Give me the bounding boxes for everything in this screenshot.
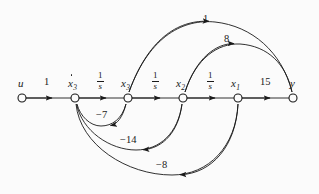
edge-weight-u-to-xd3: 1 — [44, 77, 49, 88]
edge-weight-x3-to-x2: 1s — [152, 72, 159, 93]
edge-weight-x2-to-y: 8 — [224, 34, 229, 45]
edge-arrow-x3-to-xd3 — [111, 104, 127, 126]
edge-weight-x3-to-y: 1 — [203, 14, 208, 25]
node-label-x2: x2 — [176, 78, 185, 89]
node-x2[interactable] — [179, 94, 187, 102]
edge-weight-x1-to-y: 15 — [260, 77, 271, 88]
signal-flow-graph-figure: u x3 x3 x2 x1 y 1 1s 1s 1s 15 1 8 −7 −14… — [0, 0, 319, 194]
node-y[interactable] — [289, 94, 297, 102]
edge-weight-x1-to-xd3: −8 — [156, 160, 167, 171]
edge-weight-x2-to-x1: 1s — [207, 72, 214, 93]
node-label-x1: x1 — [231, 78, 240, 89]
node-label-u: u — [18, 78, 24, 89]
edge-weight-x2-to-xd3: −14 — [120, 135, 136, 146]
node-xd3[interactable] — [71, 94, 79, 102]
node-x1[interactable] — [234, 94, 242, 102]
node-label-x3: x3 — [121, 78, 130, 89]
edge-weight-xd3-to-x3: 1s — [97, 72, 104, 93]
edge-weight-x3-to-xd3: −7 — [96, 110, 107, 121]
node-u[interactable] — [18, 94, 26, 102]
edge-arrow-x2-to-xd3 — [143, 104, 182, 150]
node-x3[interactable] — [124, 94, 132, 102]
edge-arrow-x3-to-y — [129, 21, 209, 92]
node-label-y: y — [290, 78, 295, 89]
node-label-xd3: x3 — [68, 78, 77, 89]
